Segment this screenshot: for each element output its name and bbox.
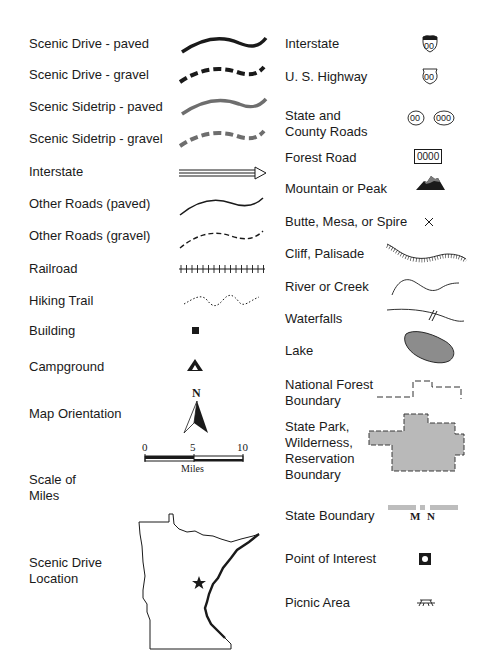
legend-label-scenic-sidetrip-gravel: Scenic Sidetrip - gravel [29,131,163,147]
legend-label-hiking-trail: Hiking Trail [29,293,93,309]
legend-label-interstate-shield: Interstate [285,36,339,52]
legend-label-map-orientation: Map Orientation [29,406,122,422]
legend-label-scale-of-miles: Scale of Miles [29,472,76,504]
north-letter: N [192,386,201,401]
legend-label-picnic-area: Picnic Area [285,595,350,611]
legend-label-other-roads-paved: Other Roads (paved) [29,196,150,212]
campground-tent-icon [186,358,204,372]
legend-label-state-boundary: State Boundary [285,508,375,524]
butte-x-icon [424,217,434,227]
interstate-double-line-icon [179,166,269,180]
state-boundary-icon [388,505,460,511]
railroad-track-icon [179,264,267,274]
legend-label-cliff-palisade: Cliff, Palisade [285,246,364,262]
legend-label-waterfalls: Waterfalls [285,311,342,327]
legend-label-river-creek: River or Creek [285,279,369,295]
legend-label-scenic-drive-location: Scenic Drive Location [29,555,102,587]
scale-tick-10: 10 [237,441,248,453]
scenic-sidetrip-paved-line-icon [181,95,267,117]
legend-label-state-county-roads: State and County Roads [285,108,367,140]
other-roads-paved-line-icon [179,195,265,217]
picnic-table-icon [417,599,435,607]
lake-icon [403,330,457,364]
legend-label-campground: Campground [29,359,104,375]
us-highway-shield-number: 00 [424,72,434,82]
legend-label-butte-mesa-spire: Butte, Mesa, or Spire [285,214,407,230]
scenic-drive-gravel-line-icon [179,63,265,85]
legend-label-railroad: Railroad [29,261,77,277]
scenic-drive-paved-line-icon [181,33,267,55]
mountain-peak-icon [416,175,446,191]
state-boundary-left-letter: M [410,510,420,522]
point-of-interest-icon [419,553,431,565]
legend-label-us-highway: U. S. Highway [285,69,367,85]
other-roads-gravel-line-icon [179,228,265,250]
minnesota-outline-icon [137,512,262,647]
legend-label-scenic-drive-paved: Scenic Drive - paved [29,36,149,52]
building-square-icon [192,327,199,334]
scale-tick-5: 5 [190,441,196,453]
forest-road-box: 0000 [414,149,442,164]
legend-label-other-roads-gravel: Other Roads (gravel) [29,228,150,244]
river-creek-icon [391,276,461,296]
legend-label-interstate-line: Interstate [29,164,83,180]
scale-tick-0: 0 [142,441,148,453]
state-road-number: 00 [410,113,420,123]
legend-label-building: Building [29,323,75,339]
waterfalls-icon [386,306,466,328]
legend-label-mountain-peak: Mountain or Peak [285,181,387,197]
legend-label-lake: Lake [285,343,313,359]
national-forest-boundary-icon [376,377,464,401]
north-arrow-icon [182,400,210,436]
hiking-trail-dotted-icon [183,291,261,311]
legend-label-national-forest-boundary: National Forest Boundary [285,377,373,409]
state-park-boundary-icon [368,413,466,475]
cliff-palisade-icon [386,242,468,264]
interstate-shield-number: 00 [424,41,434,51]
state-boundary-right-letter: N [427,510,435,522]
county-road-number: 000 [436,113,451,123]
legend-label-scenic-drive-gravel: Scenic Drive - gravel [29,67,149,83]
scale-unit-label: Miles [181,463,204,474]
legend-label-point-of-interest: Point of Interest [285,551,376,567]
legend-label-forest-road: Forest Road [285,150,357,166]
legend-label-scenic-sidetrip-paved: Scenic Sidetrip - paved [29,99,163,115]
scenic-sidetrip-gravel-line-icon [179,127,265,149]
legend-label-state-park-wilderness-boundary: State Park, Wilderness, Reservation Boun… [285,419,354,483]
